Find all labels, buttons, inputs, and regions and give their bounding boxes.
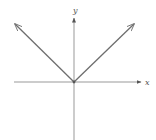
x-axis-label: x — [145, 78, 150, 87]
absolute-value-graph: x y — [0, 0, 156, 140]
vertex-point — [73, 81, 76, 84]
y-axis-label: y — [72, 6, 78, 15]
